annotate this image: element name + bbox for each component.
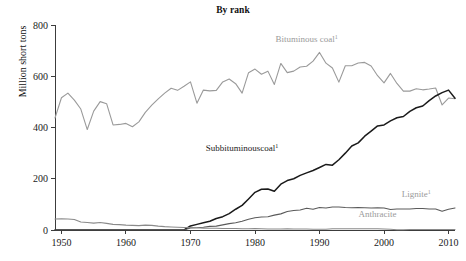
x-tick-label: 1950 [51,237,71,248]
y-tick-label: 200 [33,173,48,184]
series-label-bituminous-coal: Bituminous coal1 [275,34,337,44]
x-tick-label: 1990 [310,237,330,248]
series-group [55,52,455,230]
x-tick-label: 1970 [180,237,200,248]
series-labels-group: Bituminous coal1Subbituminouscoal1Lignit… [206,34,431,220]
x-tick-label: 2010 [439,237,459,248]
series-label-lignite: Lignite1 [402,189,431,199]
series-line-anthracite [55,219,455,230]
y-tick-label: 600 [33,71,48,82]
y-tick-label: 0 [43,225,48,236]
y-tick-label: 800 [33,20,48,31]
chart-figure: By rank Million short tons 0200400600800… [0,0,466,261]
series-label-subbituminous-coal: Subbituminouscoal1 [206,143,279,153]
chart-plot-area: 0200400600800195019601970198019902000201… [0,0,466,261]
x-tick-label: 2000 [374,237,394,248]
x-tick-label: 1980 [245,237,265,248]
series-label-anthracite: Anthracite [359,209,397,219]
y-tick-label: 400 [33,122,48,133]
x-tick-label: 1960 [116,237,136,248]
